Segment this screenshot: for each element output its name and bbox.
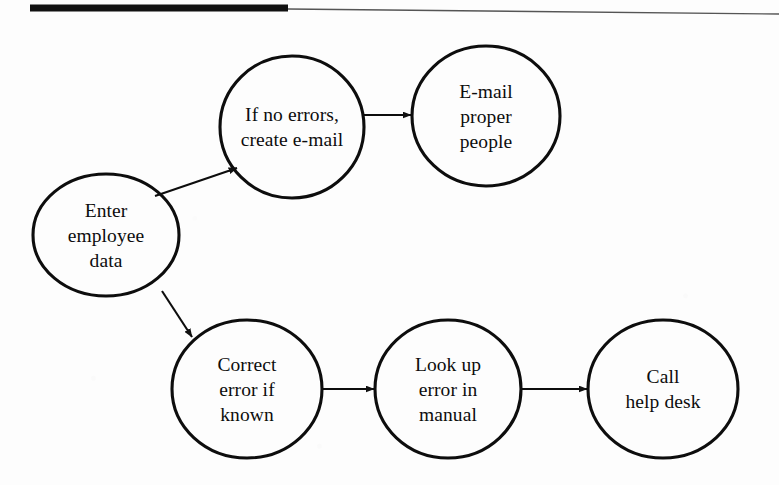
node-shape-look-up-error-in-manual[interactable]: [375, 320, 521, 458]
rule-thin-segment: [288, 9, 779, 14]
node-shape-email-proper-people[interactable]: [412, 46, 560, 186]
flowchart-canvas: [0, 0, 779, 485]
edge-group: [155, 115, 587, 389]
diagram-page: EnteremployeedataIf no errors,create e-m…: [0, 0, 779, 485]
edge-enter-to-if-no-errors: [155, 168, 237, 196]
node-group: [33, 46, 738, 458]
node-shape-enter-employee-data[interactable]: [33, 174, 179, 296]
header-rule: [30, 8, 779, 14]
node-shape-if-no-errors-create-email[interactable]: [220, 56, 364, 198]
edge-enter-to-correct-error: [162, 291, 192, 337]
node-shape-correct-error-if-known[interactable]: [172, 320, 322, 458]
node-shape-call-help-desk[interactable]: [588, 320, 738, 458]
